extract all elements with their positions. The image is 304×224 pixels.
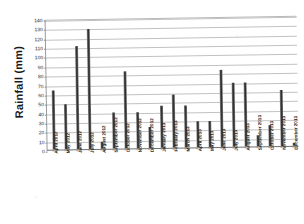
y-axis-tick-label: 50 [38,102,44,107]
x-axis-tick-label: March 2013 [186,126,191,151]
y-axis-tick-label: 120 [34,37,42,42]
y-axis-title: Rainfall (mm) [12,17,26,147]
x-axis-tick-label: September 2012 [114,117,119,152]
y-axis-tick-label: 10 [39,140,45,145]
rainfall-bar-chart: Rainfall (mm) 14013012011010090807060504… [0,0,304,224]
y-axis-tick-label: 0 [42,149,45,154]
y-axis-tick-label: 110 [35,46,43,51]
x-axis-tick-label: June 2012 [78,131,83,153]
y-axis-tick-label: 80 [38,74,44,79]
x-axis-tick-label: October 2012 [126,123,131,152]
x-axis-tick-label: July 2012 [90,132,95,153]
x-axis-ticks: April 2012May 2012June 2012July 2012Augu… [47,148,300,224]
y-axis-tick-label: 40 [38,112,44,117]
x-axis-tick-label: December 2012 [150,118,155,152]
y-axis-tick-label: 60 [38,93,44,98]
x-axis-tick-label: February 2013 [174,120,179,151]
x-axis-tick-label: May 2013 [210,131,215,152]
x-axis-tick-label: June 2013 [222,129,227,151]
x-axis-tick-label: April 2013 [198,129,203,151]
y-axis-tick-label: 130 [34,28,42,33]
x-axis-tick-label: July 2013 [234,130,239,151]
x-axis-tick-label: May 2012 [66,133,71,154]
x-axis-tick-label: January 2013 [162,123,167,152]
x-axis-tick-label: October 2013 [270,121,275,150]
y-axis-tick-label: 140 [34,18,42,23]
y-axis-tick-label: 20 [39,130,45,135]
x-axis-tick-label: August 2013 [246,123,251,150]
y-axis-tick-label: 70 [38,84,44,89]
x-axis-tick-label: November 2012 [138,118,143,152]
x-axis-tick-label: April 2012 [54,131,59,153]
y-axis-tick-label: 100 [35,56,43,61]
chart-screenshot: Rainfall (mm) 14013012011010090807060504… [0,0,304,224]
x-axis-tick-label: August 2012 [102,125,107,152]
y-axis-tick-label: 90 [38,65,44,70]
x-axis-tick-label: December 2013 [294,116,299,150]
y-axis-tick-label: 30 [39,121,45,126]
x-axis-tick-label: September 2013 [258,115,263,150]
x-axis-tick-label: November 2013 [282,116,287,150]
